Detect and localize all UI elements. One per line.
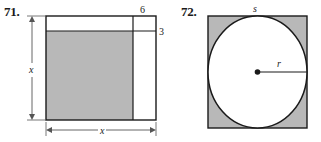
center-dot (255, 69, 261, 75)
problem-72-figure (0, 0, 321, 142)
label-radius-r: r (277, 59, 281, 69)
worksheet-page: 71. 6 3 x x (0, 0, 321, 142)
label-square-side-s: s (253, 4, 257, 14)
